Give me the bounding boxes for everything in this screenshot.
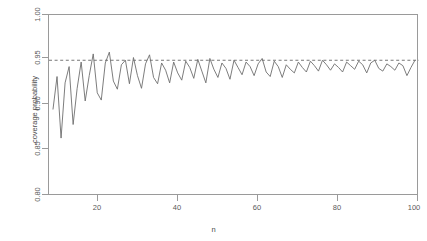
y-tick-label-0.80: 0.80	[33, 184, 42, 206]
coverage-probability-line	[53, 52, 415, 138]
x-tick-label-40: 40	[162, 203, 192, 212]
y-axis-label: coverage probability	[30, 35, 39, 185]
y-tick-label-1.00: 1.00	[33, 4, 42, 26]
plot-area	[49, 15, 419, 196]
x-tick-label-20: 20	[82, 203, 112, 212]
x-tick-label-100: 100	[399, 203, 427, 212]
x-axis-label: n	[0, 225, 427, 234]
plot-panel	[48, 14, 418, 195]
chart-title	[0, 0, 427, 3]
chart-figure: 1.00 0.95 0.90 0.85 0.80 20 40 60 80 100…	[0, 0, 427, 241]
x-tick-label-80: 80	[322, 203, 352, 212]
x-tick-label-60: 60	[242, 203, 272, 212]
